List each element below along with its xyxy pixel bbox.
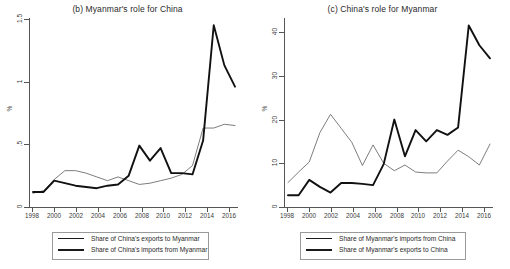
panel-c-xtick-label-7: 2012 [428,212,452,219]
panel-c-xtick-label-2: 2002 [319,212,343,219]
legend-line-thin-icon [58,238,84,239]
panel-c-legend-label-1: Share of Myanmar's exports to China [339,246,448,253]
panel-b-xtick-label-8: 2014 [195,212,219,219]
panel-b-xtick-label-6: 2010 [151,212,175,219]
panel-b-ytick-label-2: 1 [16,74,23,90]
panel-b-legend-label-0: Share of China's exports to Myanmar [91,235,200,242]
panel-b-ytick-2 [24,82,29,83]
panel-b-ytick-label-3: 1.5 [16,11,23,27]
panel-b-ytick-0 [24,207,29,208]
panel-c-xtick-label-4: 2006 [363,212,387,219]
panel-c-ytick-1 [279,163,284,164]
panel-c-plot [285,18,493,208]
panel-c-xtick-label-8: 2014 [450,212,474,219]
panel-b-series-imports-line [33,25,235,192]
panel-c-ytick-0 [279,207,284,208]
panel-b-y-axis-title: % [6,102,13,116]
panel-b-xtick-label-9: 2016 [217,212,241,219]
panel-c-ytick-label-3: 30 [271,68,278,84]
panel-b-ytick-label-1: .5 [16,136,23,152]
panel-c-legend: Share of Myanmar's imports from China Sh… [300,232,466,260]
panel-c-ytick-4 [279,32,284,33]
panel-c-xtick-label-0: 1998 [275,212,299,219]
panel-c-series-imports-line [288,114,490,182]
panel-b-legend-label-1: Share of China's imports from Myanmar [91,246,207,253]
panel-b-legend-item-1[interactable]: Share of China's imports from Myanmar [53,244,208,255]
panel-c-title: (c) China's role for Myanmar [255,4,510,14]
panel-b-xtick-label-4: 2006 [108,212,132,219]
panel-b-xtick-label-0: 1998 [20,212,44,219]
panel-b-ytick-1 [24,144,29,145]
panel-b-xtick-label-1: 2000 [42,212,66,219]
legend-line-thick-icon [306,249,332,251]
figure-root: (b) Myanmar's role for China % 0 .5 1 1.… [0,0,510,269]
panel-b-ytick-3 [24,19,29,20]
panel-c-ytick-label-1: 10 [271,155,278,171]
panel-c-ytick-label-4: 40 [271,24,278,40]
panel-c-xtick-label-6: 2010 [406,212,430,219]
panel-c-y-axis-title: % [261,102,268,116]
panel-c-legend-item-0[interactable]: Share of Myanmar's imports from China [301,233,465,244]
panel-b-plot [30,18,238,208]
panel-c: (c) China's role for Myanmar % 0 10 20 3… [255,0,510,269]
panel-c-xtick-label-9: 2016 [472,212,496,219]
panel-c-xtick-label-1: 2000 [297,212,321,219]
panel-b: (b) Myanmar's role for China % 0 .5 1 1.… [0,0,255,269]
panel-b-xtick-label-2: 2002 [64,212,88,219]
panel-c-ytick-label-2: 20 [271,112,278,128]
panel-b-legend: Share of China's exports to Myanmar Shar… [52,232,209,260]
panel-b-title: (b) Myanmar's role for China [0,4,255,14]
panel-b-legend-item-0[interactable]: Share of China's exports to Myanmar [53,233,208,244]
panel-b-xtick-label-3: 2004 [86,212,110,219]
legend-line-thin-icon [306,238,332,239]
panel-b-xtick-label-7: 2012 [173,212,197,219]
legend-line-thick-icon [58,249,84,251]
panel-c-series-exports-line [288,26,490,196]
panel-c-legend-label-0: Share of Myanmar's imports from China [339,235,455,242]
panel-c-ytick-3 [279,76,284,77]
panel-c-legend-item-1[interactable]: Share of Myanmar's exports to China [301,244,465,255]
panel-c-xtick-label-3: 2004 [341,212,365,219]
panel-c-ytick-2 [279,120,284,121]
